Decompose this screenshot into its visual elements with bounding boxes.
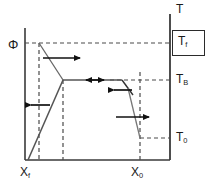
curve-right-notch (122, 80, 133, 95)
temperature-label-t0: T0 (176, 131, 187, 143)
temperature-label-tb: TB (176, 73, 188, 85)
t0-subscript: 0 (183, 136, 187, 145)
curve-lower-branch (28, 80, 63, 160)
x0-subscript: 0 (139, 171, 143, 180)
temperature-label-tf: Tf (178, 35, 187, 47)
x0-base: X (131, 165, 139, 179)
xf-subscript: f (28, 171, 30, 180)
diagram-svg (0, 0, 208, 186)
figure-canvas: Φ T Tf TB T0 Xf X0 (0, 0, 208, 186)
tb-subscript: B (183, 78, 188, 87)
composition-label-xf: Xf (20, 166, 30, 178)
tf-highlight-box (172, 30, 205, 56)
curve-right-drop (128, 88, 140, 138)
xf-base: X (20, 165, 28, 179)
y-axis-label-phi: Φ (8, 38, 18, 51)
curve-upper-branch (39, 43, 63, 80)
composition-label-x0: X0 (131, 166, 143, 178)
y-axis-label-temperature: T (176, 3, 183, 15)
